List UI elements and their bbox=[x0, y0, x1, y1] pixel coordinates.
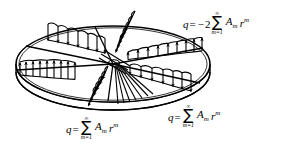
figure-root: q=−2 ∞∑m=1Amrm q= ∞∑m=1Amrm q= ∞∑m=1Amrm bbox=[0, 0, 281, 155]
plate-diagram-svg bbox=[0, 0, 281, 155]
